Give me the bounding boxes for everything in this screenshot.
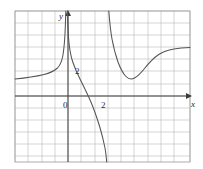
function-graph-svg: 2 0 2 y x — [0, 0, 203, 169]
graph-figure: 2 0 2 y x — [0, 0, 203, 169]
y-axis-label: y — [58, 11, 63, 21]
x-axis-label: x — [190, 99, 195, 109]
x-tick-label-0: 0 — [63, 100, 68, 110]
y-tick-label-2: 2 — [75, 66, 80, 76]
x-tick-label-2: 2 — [101, 100, 106, 110]
plot-background — [0, 0, 203, 169]
